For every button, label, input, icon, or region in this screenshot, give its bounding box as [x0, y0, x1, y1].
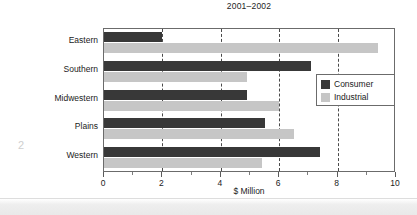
x-tick-minor — [191, 172, 192, 175]
scan-artifact-band — [0, 199, 417, 215]
legend-swatch-icon — [321, 80, 330, 89]
category-label: Eastern — [2, 35, 98, 45]
category-label: Western — [2, 150, 98, 160]
bar — [104, 90, 247, 100]
legend-label: Consumer — [334, 80, 373, 89]
bar — [104, 72, 247, 82]
x-tick-major — [161, 172, 162, 177]
bar — [104, 43, 378, 53]
x-tick-minor — [249, 172, 250, 175]
category-axis-labels: EasternSouthernMidwesternPlainsWestern — [0, 28, 98, 172]
bar-group — [104, 146, 394, 173]
bar — [104, 61, 311, 71]
bar — [104, 32, 162, 42]
chart-legend: ConsumerIndustrial — [316, 74, 395, 106]
x-tick-major — [220, 172, 221, 177]
legend-item: Industrial — [321, 91, 369, 104]
x-axis-label: $ Million — [103, 186, 395, 196]
category-label: Southern — [2, 64, 98, 74]
legend-label: Industrial — [334, 93, 369, 102]
legend-swatch-icon — [321, 93, 330, 102]
chart-page: 2 2001–2002 EasternSouthernMidwesternPla… — [0, 0, 417, 215]
x-tick-minor — [132, 172, 133, 175]
x-tick-major — [103, 172, 104, 177]
legend-item: Consumer — [321, 78, 373, 91]
x-tick-major — [278, 172, 279, 177]
bar — [104, 147, 320, 157]
x-tick-major — [337, 172, 338, 177]
bar-group — [104, 117, 394, 144]
chart-title: 2001–2002 — [103, 1, 395, 11]
x-tick-minor — [307, 172, 308, 175]
bar — [104, 101, 279, 111]
bar-group — [104, 31, 394, 58]
x-tick-major — [395, 172, 396, 177]
x-tick-minor — [366, 172, 367, 175]
category-label: Plains — [2, 121, 98, 131]
category-label: Midwestern — [2, 93, 98, 103]
bar — [104, 158, 262, 168]
bar — [104, 118, 265, 128]
bar — [104, 129, 294, 139]
